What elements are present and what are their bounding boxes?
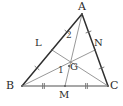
angle-label-2: 2 <box>66 31 72 40</box>
point-dot-c <box>107 85 109 87</box>
point-dot-a <box>81 13 83 15</box>
angle-label-1: 1 <box>58 66 64 75</box>
vertex-label-b: B <box>6 80 14 91</box>
point-dot-m <box>64 85 66 87</box>
point-label-n: N <box>94 38 103 48</box>
point-label-g: G <box>70 62 78 72</box>
vertex-dots <box>21 13 109 87</box>
vertex-label-a: A <box>78 1 86 12</box>
point-dot-l <box>51 49 53 51</box>
point-dot-b <box>21 85 23 87</box>
point-dot-n <box>94 49 96 51</box>
point-label-l: L <box>35 38 42 48</box>
geometry-figure: A B C L N M G 1 2 <box>0 0 123 106</box>
point-label-m: M <box>59 90 69 100</box>
vertex-label-c: C <box>110 80 118 91</box>
